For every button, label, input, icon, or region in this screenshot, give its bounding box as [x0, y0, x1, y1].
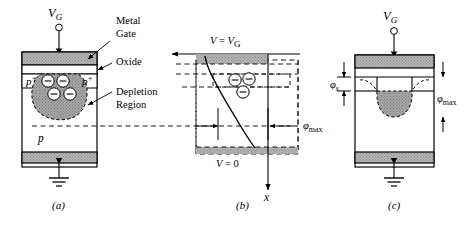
- electron-icon: [237, 86, 249, 98]
- annotation-depletion-line2: Region: [116, 99, 147, 110]
- gate-terminal-a: [56, 24, 63, 53]
- electron-icon: [243, 73, 255, 85]
- annotation-metal-gate-line1: Metal: [116, 15, 141, 26]
- gate-terminal-c: [391, 28, 398, 57]
- electron-icon: [48, 88, 60, 100]
- electron-icon: [229, 74, 241, 86]
- annotation-depletion-line1: Depletion: [116, 86, 158, 97]
- vg-label-a: VG: [48, 6, 63, 22]
- electron-icon: [57, 75, 69, 87]
- x-axis-label-b: x: [263, 191, 270, 203]
- potential-profile-curve: [205, 56, 255, 148]
- panel-letter-b: (b): [236, 199, 249, 212]
- panel-letter-c: (c): [388, 199, 401, 212]
- panel-letter-a: (a): [52, 199, 65, 212]
- terminal-circle-icon: [391, 28, 398, 35]
- leader-metal-gate: [88, 41, 110, 59]
- phi-max-label-b: φmax: [303, 120, 323, 133]
- panel-b: φmax V = VG V = 0 x (b): [172, 35, 323, 212]
- v-equals-vg-label: V = VG: [210, 35, 241, 49]
- panel-c: VG: [330, 9, 457, 212]
- metal-gate-bar: [22, 52, 97, 65]
- phi-s-label-c: φs: [330, 79, 339, 92]
- v-equals-zero-label: V = 0: [216, 158, 239, 169]
- figure-root: VG: [0, 0, 476, 230]
- v-equals-zero-band: [196, 147, 298, 154]
- figure-canvas: VG: [0, 0, 476, 230]
- electron-icon: [64, 88, 76, 100]
- electron-group-b: [229, 73, 255, 98]
- phi-max-label-c: φmax: [437, 93, 457, 106]
- leader-oxide: [98, 63, 112, 70]
- electron-icon: [42, 75, 54, 87]
- metal-gate-bar-c: [355, 55, 434, 68]
- p-substrate-label: p: [37, 132, 44, 145]
- oxide-layer: [22, 65, 97, 74]
- vg-label-c: VG: [383, 9, 398, 25]
- terminal-circle-icon: [56, 24, 63, 31]
- annotation-oxide: Oxide: [116, 56, 142, 67]
- annotation-metal-gate-line2: Gate: [116, 28, 136, 39]
- panel-a: VG: [22, 6, 158, 212]
